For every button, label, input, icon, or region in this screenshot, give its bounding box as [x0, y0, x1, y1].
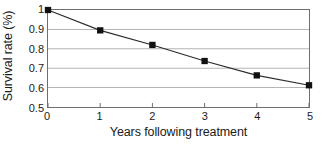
x-tick-label: 2	[149, 110, 155, 123]
x-axis-title: Years following treatment	[47, 125, 310, 139]
y-axis-tick-labels: 10.90.80.70.60.5	[16, 0, 46, 112]
plot-area	[47, 9, 310, 108]
data-point-markers	[45, 7, 312, 89]
x-tick-label: 1	[97, 110, 103, 123]
x-axis-tick-labels: 012345	[47, 110, 310, 126]
data-line	[48, 10, 309, 85]
y-tick-label: 1	[38, 4, 44, 15]
y-tick-label: 0.5	[29, 103, 44, 114]
data-point	[306, 82, 312, 88]
survival-rate-chart: Survival rate (%) 10.90.80.70.60.5 01234…	[0, 0, 329, 145]
x-tick-marks	[48, 103, 309, 107]
x-tick-label: 0	[44, 110, 50, 123]
gridlines	[48, 29, 309, 87]
y-axis-title-text: Survival rate (%)	[1, 11, 15, 102]
y-axis-title: Survival rate (%)	[0, 0, 16, 112]
x-tick-label: 5	[307, 110, 313, 123]
y-tick-label: 0.9	[29, 23, 44, 34]
data-point	[97, 27, 103, 33]
y-tick-label: 0.7	[29, 63, 44, 74]
y-tick-label: 0.6	[29, 83, 44, 94]
x-tick-label: 4	[254, 110, 260, 123]
plot-canvas	[48, 10, 309, 107]
data-point	[45, 7, 51, 13]
data-point	[149, 42, 155, 48]
data-point	[201, 58, 207, 64]
y-tick-label: 0.8	[29, 43, 44, 54]
data-point	[254, 72, 260, 78]
x-tick-label: 3	[202, 110, 208, 123]
